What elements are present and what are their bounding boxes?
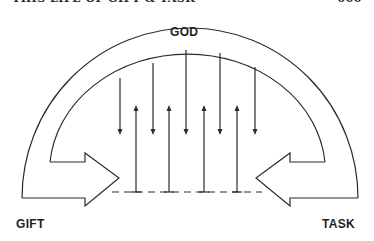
arrowhead-up-icon	[235, 105, 240, 111]
task-arrow	[256, 153, 358, 206]
inner-arch	[50, 54, 325, 162]
arrowhead-down-icon	[118, 129, 123, 135]
arrowhead-up-icon	[134, 105, 139, 111]
god-label: GOD	[170, 25, 198, 39]
gift-label: GIFT	[16, 217, 45, 231]
task-label: TASK	[322, 217, 355, 231]
arrowhead-up-icon	[202, 105, 207, 111]
arrowhead-down-icon	[218, 129, 223, 135]
arrowhead-up-icon	[167, 105, 172, 111]
arrowhead-down-icon	[184, 129, 189, 135]
arrowhead-down-icon	[253, 129, 258, 135]
arrowhead-down-icon	[151, 129, 156, 135]
gift-arrow	[22, 153, 119, 206]
